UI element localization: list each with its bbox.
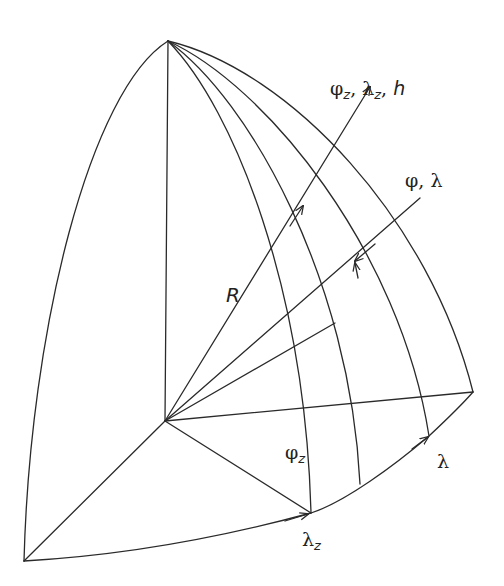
- sphere-octant-diagram: [0, 0, 504, 586]
- geodetic-normal-line: [165, 198, 420, 421]
- geocentric-axis-label: φz, λz, h: [330, 79, 405, 101]
- polar-axis: [165, 41, 168, 421]
- outer-right-meridian: [168, 41, 473, 392]
- left-meridian-arc: [24, 41, 168, 561]
- radius-to-phi-z-foot: [165, 421, 311, 513]
- lambda-z-arrow: [285, 514, 308, 521]
- geodetic-arrow-lower: [355, 263, 358, 278]
- radius-label: R: [226, 285, 240, 305]
- lambda-z-base: λ: [302, 528, 314, 550]
- height-symbol: h: [393, 77, 405, 99]
- lambda-arrow: [412, 437, 428, 449]
- lambda-z-sub: z: [314, 538, 321, 553]
- phi-z-base: φ: [285, 441, 298, 463]
- phi-z-sub: z: [298, 451, 305, 466]
- lambda-symbol: , λ: [350, 77, 374, 99]
- interior-radius: [165, 323, 335, 421]
- phi-symbol: φ: [330, 77, 343, 99]
- radius-to-left-corner: [24, 421, 165, 561]
- separator: ,: [381, 77, 393, 99]
- equator-arc: [24, 392, 473, 561]
- lambda-label: λ: [437, 452, 449, 471]
- geocentric-radius-line: [165, 87, 370, 421]
- radius-to-right-corner: [165, 392, 473, 421]
- lambda-z-label: λz: [302, 530, 321, 552]
- phi-z-label: φz: [285, 443, 305, 465]
- geodetic-axis-label: φ, λ: [405, 171, 442, 190]
